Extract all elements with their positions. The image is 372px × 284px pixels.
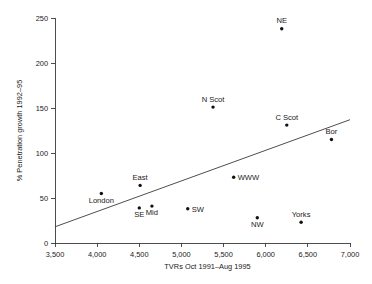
x-tick-group: 3,5004,0004,5005,0005,5006,0006,5007,000 <box>46 243 360 259</box>
y-tick-label: 50 <box>40 194 48 203</box>
point-label: Bor <box>326 127 338 136</box>
x-tick-label: 7,000 <box>341 250 360 259</box>
data-point <box>330 138 333 141</box>
scatter-chart: 050100150200250 3,5004,0004,5005,0005,50… <box>0 0 372 284</box>
point-label: C Scot <box>275 113 299 122</box>
data-point <box>299 221 302 224</box>
data-point <box>232 176 235 179</box>
chart-canvas: 050100150200250 3,5004,0004,5005,0005,50… <box>0 0 372 284</box>
y-tick-label: 250 <box>36 14 48 23</box>
data-point <box>285 123 288 126</box>
x-tick-label: 4,500 <box>130 250 149 259</box>
x-tick-label: 6,500 <box>299 250 318 259</box>
y-tick-label: 0 <box>44 239 48 248</box>
point-label: NE <box>276 16 287 25</box>
x-tick-label: 6,000 <box>256 250 275 259</box>
point-label: NW <box>251 220 264 229</box>
point-label: WWW <box>238 173 260 182</box>
x-tick-label: 4,000 <box>88 250 107 259</box>
x-tick-label: 3,500 <box>46 250 65 259</box>
data-point <box>280 27 283 30</box>
y-tick-label: 150 <box>36 104 48 113</box>
data-point <box>186 207 189 210</box>
data-points: LondonEastSEMidSWN ScotWWWNWNEC ScotYork… <box>89 16 338 229</box>
data-point <box>138 184 141 187</box>
y-tick-label: 200 <box>36 59 48 68</box>
x-axis-title: TVRs Oct 1991–Aug 1995 <box>164 262 250 271</box>
x-tick-label: 5,500 <box>214 250 233 259</box>
point-label: N Scot <box>202 95 226 104</box>
x-tick-label: 5,000 <box>172 250 191 259</box>
y-tick-label: 100 <box>36 149 48 158</box>
y-axis: 050100150200250 <box>36 14 55 248</box>
point-label: SW <box>192 205 205 214</box>
point-label: Mid <box>146 208 158 217</box>
point-label: Yorks <box>292 210 311 219</box>
y-axis-title: % Penetration growth 1992–95 <box>15 80 24 182</box>
data-point <box>211 105 214 108</box>
point-label: SE <box>134 210 144 219</box>
y-tick-group: 050100150200250 <box>36 14 55 248</box>
x-axis: 3,5004,0004,5005,0005,5006,0006,5007,000 <box>46 243 360 259</box>
point-label: London <box>89 196 114 205</box>
point-label: East <box>133 173 149 182</box>
